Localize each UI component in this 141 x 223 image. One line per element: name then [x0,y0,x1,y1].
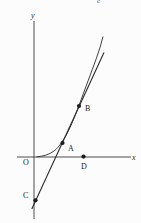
point-b-dot [77,104,81,108]
point-b-label: B [85,104,90,113]
point-c-dot [33,198,37,202]
origin-label: O [23,158,29,167]
x-axis-label: x [131,153,136,162]
point-a-label: A [68,144,74,153]
partial-top-text: c [97,0,100,5]
figure-svg: c y x O A B C D [0,0,141,223]
y-axis-label: y [30,11,35,20]
point-c-label: C [23,191,28,200]
point-d-dot [81,155,85,159]
curve [37,37,104,157]
point-a-dot [60,141,64,145]
point-d-label: D [81,162,87,171]
secant-line [32,53,104,210]
math-figure: c y x O A B C D [0,0,141,223]
